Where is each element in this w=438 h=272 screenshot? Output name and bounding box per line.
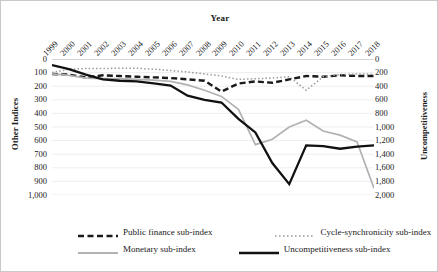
- x-tick-2003: 2003: [109, 40, 127, 58]
- y-tick-right: 400: [375, 82, 409, 91]
- x-tick-2007: 2007: [177, 40, 195, 58]
- y-tick-right: 800: [375, 109, 409, 118]
- x-tick-2002: 2002: [92, 40, 110, 58]
- x-axis-title: Year: [1, 13, 438, 23]
- chart-figure: Year Other Indices Uncompetitiveness 010…: [0, 0, 438, 272]
- y-tick-right: 600: [375, 95, 409, 104]
- x-tick-2000: 2000: [59, 40, 77, 58]
- x-tick-2005: 2005: [143, 40, 161, 58]
- y-tick-left: 800: [13, 163, 47, 172]
- y-tick-left: 900: [13, 177, 47, 186]
- legend-item-cycle-synchronicity[interactable]: Cycle-synchronicity sub-index: [274, 227, 431, 237]
- y-tick-right: 200: [375, 68, 409, 77]
- legend-swatch-solid-gray: [77, 244, 119, 254]
- y-tick-right: 1,400: [375, 150, 409, 159]
- chart-legend: Public finance sub-index Cycle-synchroni…: [45, 223, 400, 263]
- legend-swatch-dotted: [274, 227, 316, 237]
- y-axis-right-title: Uncompetitiveness: [419, 71, 429, 181]
- legend-row-1: Public finance sub-index Cycle-synchroni…: [45, 223, 400, 240]
- y-tick-right: 1,600: [375, 163, 409, 172]
- y-tick-right: 0: [375, 55, 409, 64]
- plot-svg: [52, 59, 374, 195]
- x-tick-2009: 2009: [211, 40, 229, 58]
- x-tick-2015: 2015: [313, 40, 331, 58]
- legend-label-cycle-synchronicity: Cycle-synchronicity sub-index: [320, 227, 431, 237]
- legend-label-public-finance: Public finance sub-index: [123, 227, 212, 237]
- series-line-public-finance-sub-index: [52, 74, 374, 92]
- y-axis-left-ticks: 01002003004005006007008009001,000: [13, 1, 47, 272]
- y-tick-left: 0: [13, 55, 47, 64]
- series-line-monetary-sub-index: [52, 74, 374, 188]
- x-tick-2012: 2012: [262, 40, 280, 58]
- x-tick-2004: 2004: [126, 40, 144, 58]
- x-tick-2011: 2011: [245, 40, 263, 58]
- legend-swatch-dashed: [77, 227, 119, 237]
- x-tick-2006: 2006: [160, 40, 178, 58]
- legend-item-uncompetitiveness[interactable]: Uncompetitiveness sub-index: [238, 244, 391, 254]
- y-tick-left: 600: [13, 136, 47, 145]
- y-tick-left: 700: [13, 150, 47, 159]
- y-tick-right: 2,000: [375, 191, 409, 200]
- x-tick-2016: 2016: [330, 40, 348, 58]
- y-tick-right: 1,000: [375, 123, 409, 132]
- series-line-uncompetitiveness-sub-index: [52, 65, 374, 184]
- plot-area: [52, 59, 374, 195]
- legend-row-2: Monetary sub-index Uncompetitiveness sub…: [45, 240, 400, 257]
- legend-swatch-solid-black: [238, 244, 280, 254]
- legend-label-uncompetitiveness: Uncompetitiveness sub-index: [284, 244, 391, 254]
- x-tick-2008: 2008: [194, 40, 212, 58]
- y-tick-right: 1,200: [375, 136, 409, 145]
- y-tick-left: 200: [13, 82, 47, 91]
- y-tick-left: 400: [13, 109, 47, 118]
- y-tick-left: 300: [13, 95, 47, 104]
- x-tick-2013: 2013: [279, 40, 297, 58]
- x-tick-2010: 2010: [228, 40, 246, 58]
- x-tick-2001: 2001: [76, 40, 94, 58]
- y-tick-left: 1,000: [13, 191, 47, 200]
- y-tick-left: 100: [13, 68, 47, 77]
- legend-label-monetary: Monetary sub-index: [123, 244, 196, 254]
- legend-item-public-finance[interactable]: Public finance sub-index: [77, 227, 212, 237]
- x-tick-2017: 2017: [347, 40, 365, 58]
- legend-item-monetary[interactable]: Monetary sub-index: [77, 244, 196, 254]
- x-tick-2014: 2014: [296, 40, 314, 58]
- y-tick-left: 500: [13, 123, 47, 132]
- y-tick-right: 1,800: [375, 177, 409, 186]
